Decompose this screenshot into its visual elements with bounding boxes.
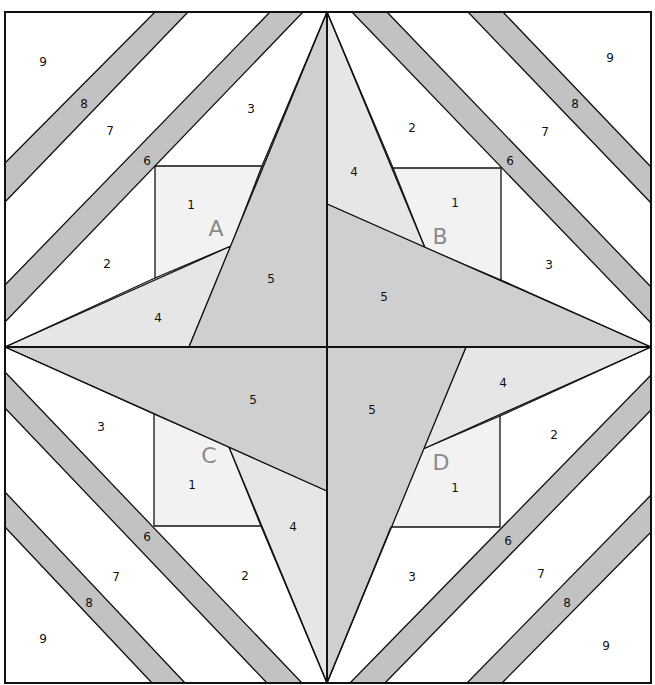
piece-number-label: 9 (39, 632, 47, 646)
piece-number-label: 6 (143, 154, 151, 168)
piece-number-label: 2 (550, 428, 558, 442)
piece-number-label: 1 (451, 196, 459, 210)
piece-number-label: 7 (541, 125, 549, 139)
piece-number-label: 5 (380, 290, 388, 304)
piece-number-label: 4 (154, 311, 162, 325)
piece-number-label: 2 (241, 569, 249, 583)
piece-number-label: 6 (143, 530, 151, 544)
piece-number-label: 4 (499, 376, 507, 390)
piece-number-label: 4 (350, 165, 358, 179)
piece-number-label: 8 (80, 97, 88, 111)
section-letter-d: D (433, 450, 450, 475)
section-letter-a: A (208, 216, 223, 241)
piece-number-label: 1 (451, 481, 459, 495)
piece-number-label: 9 (39, 55, 47, 69)
piece-number-label: 8 (85, 596, 93, 610)
piece-number-label: 5 (267, 272, 275, 286)
piece-number-label: 5 (368, 403, 376, 417)
piece-number-label: 9 (606, 51, 614, 65)
piece-number-label: 7 (112, 570, 120, 584)
piece-number-label: 2 (103, 257, 111, 271)
piece-number-label: 6 (506, 154, 514, 168)
piece-number-label: 6 (504, 534, 512, 548)
quilt-block-diagram: A987631245B987624135C531467289D542163789 (0, 0, 655, 685)
piece-number-label: 2 (408, 121, 416, 135)
piece-number-label: 4 (289, 520, 297, 534)
piece-number-label: 8 (563, 596, 571, 610)
piece-number-label: 1 (188, 478, 196, 492)
piece-number-label: 1 (187, 198, 195, 212)
piece-number-label: 3 (545, 258, 553, 272)
piece-number-label: 3 (247, 102, 255, 116)
piece-number-label: 9 (602, 639, 610, 653)
piece-number-label: 7 (106, 124, 114, 138)
piece-number-label: 7 (537, 567, 545, 581)
piece-number-label: 5 (249, 393, 257, 407)
section-letter-b: B (432, 224, 447, 249)
piece-number-label: 8 (571, 97, 579, 111)
section-letter-c: C (201, 443, 216, 468)
piece-number-label: 3 (408, 570, 416, 584)
piece-number-label: 3 (97, 420, 105, 434)
